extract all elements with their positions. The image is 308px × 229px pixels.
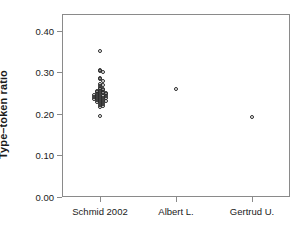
y-tick-label: 0.20: [36, 108, 55, 119]
y-axis-title-text: Type–token ratio: [0, 70, 9, 159]
x-tick-label-0: Schmid 2002: [72, 206, 127, 217]
y-tick-mark: [57, 155, 62, 156]
y-tick-mark: [57, 114, 62, 115]
x-tick-mark: [100, 197, 101, 202]
y-tick-label: 0.40: [36, 25, 55, 36]
data-point: [101, 70, 105, 74]
x-tick-mark: [176, 197, 177, 202]
x-tick-mark: [252, 197, 253, 202]
figure-canvas: Type–token ratio 0.000.100.200.300.40 Sc…: [0, 0, 308, 229]
data-point: [98, 49, 102, 53]
x-tick-label-1: Albert L.: [158, 206, 193, 217]
y-tick-mark: [57, 72, 62, 73]
x-tick-label-2: Gertrud U.: [230, 206, 274, 217]
plot-frame: [62, 14, 290, 197]
y-axis-title: Type–token ratio: [0, 0, 18, 229]
y-tick-mark: [57, 31, 62, 32]
y-tick-mark: [57, 197, 62, 198]
y-tick-label: 0.30: [36, 67, 55, 78]
data-point: [98, 105, 102, 109]
y-tick-label: 0.00: [36, 192, 55, 203]
data-point: [250, 115, 254, 119]
y-tick-label: 0.10: [36, 150, 55, 161]
data-point: [98, 114, 102, 118]
data-point: [174, 87, 178, 91]
